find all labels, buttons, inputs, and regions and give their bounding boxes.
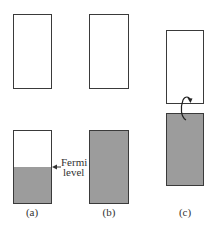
fermi-arrow-icon bbox=[52, 165, 61, 170]
excitation-arrow-icon bbox=[181, 97, 192, 120]
diagram-arrows bbox=[0, 0, 213, 227]
